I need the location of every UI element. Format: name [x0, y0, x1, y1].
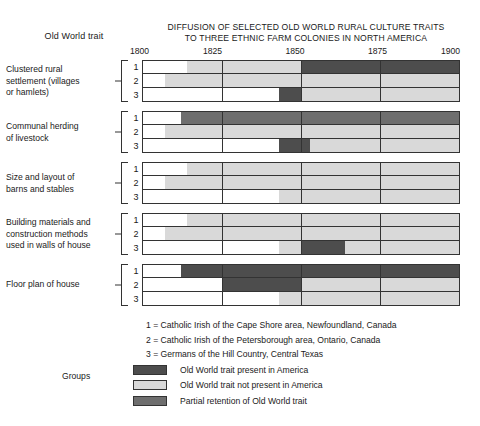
- axis-tick-1800: 1800: [130, 46, 149, 56]
- bar-track: [142, 278, 460, 292]
- chart-plot-area: Clustered ruralsettlement (villagesor ha…: [130, 60, 460, 315]
- gridline-1825: [222, 190, 223, 203]
- bar-row: 3: [130, 292, 460, 306]
- bar-segment-blank: [143, 112, 181, 124]
- bar-row: 3: [130, 88, 460, 102]
- bar-row: 1: [130, 264, 460, 278]
- row-number-3: 3: [130, 241, 142, 255]
- gridline-1875: [380, 74, 381, 87]
- row-number-2: 2: [130, 227, 142, 241]
- bar-segment-not_present: [187, 61, 301, 73]
- bar-track: [142, 213, 460, 227]
- trait-label-5: Floor plan of house: [6, 279, 112, 291]
- row-number-3: 3: [130, 190, 142, 204]
- row-number-1: 1: [130, 213, 142, 227]
- gridline-1875: [380, 241, 381, 254]
- trait-group-2: Communal herdingof livestock123: [130, 111, 460, 153]
- gridline-1825: [222, 176, 223, 189]
- gridline-1825: [222, 265, 223, 277]
- trait-group-3: Size and layout ofbarns and stables123: [130, 162, 460, 204]
- gridline-1825: [222, 241, 223, 254]
- trait-label-line: Clustered rural: [6, 64, 112, 76]
- row-number-2: 2: [130, 74, 142, 88]
- gridline-1875: [380, 112, 381, 124]
- axis-tick-1900: 1900: [441, 46, 460, 56]
- bar-row: 2: [130, 74, 460, 88]
- bar-segment-blank: [143, 241, 279, 254]
- gridline-1850: [301, 292, 302, 305]
- x-axis-tick-labels: 18001825185018751900: [130, 46, 460, 58]
- bar-track: [142, 125, 460, 139]
- group-bracket-stem: [115, 234, 121, 235]
- bar-track: [142, 190, 460, 204]
- group-key-line-1: 1 = Catholic Irish of the Cape Shore are…: [146, 318, 397, 333]
- bar-row: 2: [130, 278, 460, 292]
- bar-row: 3: [130, 241, 460, 255]
- gridline-1850: [301, 74, 302, 87]
- gridline-1850: [301, 112, 302, 124]
- gridline-1850: [301, 61, 302, 73]
- bar-segment-blank: [143, 125, 165, 138]
- bar-segment-blank: [143, 88, 279, 101]
- trait-label-2: Communal herdingof livestock: [6, 121, 112, 144]
- gridline-1850: [301, 190, 302, 203]
- bar-segment-blank: [143, 139, 279, 152]
- bar-track: [142, 139, 460, 153]
- bar-row: 1: [130, 162, 460, 176]
- gridline-1825: [222, 292, 223, 305]
- trait-label-line: Building materials and: [6, 217, 112, 229]
- gridline-1850: [301, 163, 302, 175]
- gridline-1850: [301, 88, 302, 101]
- bar-segment-blank: [143, 163, 187, 175]
- trait-label-line: of livestock: [6, 132, 112, 144]
- bar-segment-blank: [143, 176, 165, 189]
- group-key-line-3: 3 = Germans of the Hill Country, Central…: [146, 347, 397, 362]
- group-key-line-2: 2 = Catholic Irish of the Petersborough …: [146, 333, 397, 348]
- trait-label-1: Clustered ruralsettlement (villagesor ha…: [6, 64, 112, 99]
- gridline-1875: [380, 292, 381, 305]
- bar-segment-not_present: [310, 139, 459, 152]
- group-bracket-stem: [115, 132, 121, 133]
- axis-tick-1850: 1850: [285, 46, 304, 56]
- bar-row: 3: [130, 139, 460, 153]
- bar-segment-blank: [143, 190, 279, 203]
- legend-swatch-partial: [133, 396, 167, 406]
- legend-row-partial: Partial retention of Old World trait: [133, 393, 323, 409]
- chart-title: DIFFUSION OF SELECTED OLD WORLD RURAL CU…: [146, 22, 466, 44]
- chart-title-line-1: DIFFUSION OF SELECTED OLD WORLD RURAL CU…: [146, 22, 466, 33]
- bar-segment-present: [222, 278, 301, 291]
- bar-segment-not_present: [165, 176, 459, 189]
- group-bracket-stem: [115, 183, 121, 184]
- group-bracket: [121, 111, 128, 153]
- trait-label-line: barns and stables: [6, 183, 112, 195]
- bar-segment-present: [279, 139, 311, 152]
- trait-label-4: Building materials andconstruction metho…: [6, 217, 112, 252]
- trait-label-line: Floor plan of house: [6, 279, 112, 291]
- bar-segment-blank: [143, 61, 187, 73]
- column-header-old-world-trait: Old World trait: [18, 31, 130, 41]
- gridline-1850: [301, 265, 302, 277]
- gridline-1875: [380, 278, 381, 291]
- gridline-1875: [380, 265, 381, 277]
- bar-track: [142, 60, 460, 74]
- gridline-1825: [222, 163, 223, 175]
- bar-segment-present: [301, 241, 345, 254]
- gridline-1850: [301, 227, 302, 240]
- gridline-1825: [222, 125, 223, 138]
- bar-track: [142, 74, 460, 88]
- group-bracket-stem: [115, 81, 121, 82]
- groups-legend-caption: Groups: [62, 371, 90, 381]
- bar-segment-blank: [143, 278, 222, 291]
- gridline-1825: [222, 112, 223, 124]
- trait-label-line: settlement (villages: [6, 75, 112, 87]
- legend-label-partial: Partial retention of Old World trait: [180, 396, 307, 406]
- gridline-1875: [380, 139, 381, 152]
- bar-segment-blank: [143, 292, 279, 305]
- gridline-1875: [380, 163, 381, 175]
- state-legend: Old World trait present in AmericaOld Wo…: [133, 362, 323, 409]
- gridline-1825: [222, 227, 223, 240]
- gridline-1825: [222, 139, 223, 152]
- trait-group-4: Building materials andconstruction metho…: [130, 213, 460, 255]
- trait-label-line: or hamlets): [6, 87, 112, 99]
- row-number-3: 3: [130, 292, 142, 306]
